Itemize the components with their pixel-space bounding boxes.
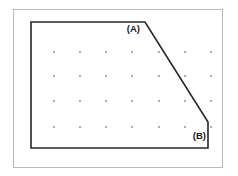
grid-dot <box>184 100 185 101</box>
grid-dot <box>105 100 106 101</box>
grid-dot <box>184 126 185 127</box>
grid-dot <box>131 75 132 76</box>
grid-dot <box>105 126 106 127</box>
grid-dot <box>131 51 132 52</box>
grid-dot <box>105 51 106 52</box>
label-a: (A) <box>127 23 140 34</box>
grid-dot <box>79 126 80 127</box>
grid-dot <box>158 75 159 76</box>
grid-dot <box>158 51 159 52</box>
grid-dot <box>210 126 211 127</box>
grid-dot <box>158 100 159 101</box>
grid-dot <box>131 126 132 127</box>
outer-frame <box>14 10 223 168</box>
label-b: (B) <box>193 130 206 141</box>
grid-dot <box>79 100 80 101</box>
grid-dot <box>210 75 211 76</box>
grid-dot <box>53 75 54 76</box>
grid-dot <box>210 100 211 101</box>
grid-dot <box>53 51 54 52</box>
grid-dot <box>184 51 185 52</box>
grid-dot <box>53 100 54 101</box>
grid-dot <box>105 75 106 76</box>
figure-canvas: (A)(B) <box>0 0 238 176</box>
grid-dot <box>131 100 132 101</box>
grid-dot <box>79 51 80 52</box>
grid-dot <box>184 75 185 76</box>
grid-dot <box>210 51 211 52</box>
grid-dot <box>158 126 159 127</box>
figure-root: (A)(B) <box>0 0 238 176</box>
grid-dot <box>79 75 80 76</box>
grid-dot <box>53 126 54 127</box>
